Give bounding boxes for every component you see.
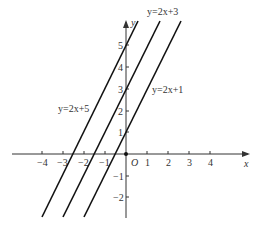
- x-tick-label: 3: [187, 157, 192, 168]
- y-tick-label: 5: [118, 40, 123, 51]
- y-tick-label: 2: [118, 106, 123, 117]
- y-tick-label: −2: [113, 192, 124, 203]
- line-y-2x-plus-5: [42, 21, 138, 217]
- x-axis-arrow-icon: [242, 151, 250, 157]
- x-tick-label: 4: [208, 157, 213, 168]
- coordinate-plane: −4 −3 −2 −1 1 2 3 4 5 4 3 2 1 −1 −2 x y …: [0, 0, 259, 225]
- line-label-2x-plus-3: y=2x+3: [147, 6, 178, 17]
- x-tick-label: 2: [166, 157, 171, 168]
- chart-figure: −4 −3 −2 −1 1 2 3 4 5 4 3 2 1 −1 −2 x y …: [0, 0, 259, 225]
- x-tick-label: −2: [78, 157, 89, 168]
- origin-dot: [124, 152, 128, 156]
- line-y-2x-plus-3: [63, 21, 160, 217]
- x-tick-label: −4: [37, 157, 48, 168]
- x-tick-label: 1: [145, 157, 150, 168]
- y-tick-label: −1: [113, 171, 124, 182]
- x-axis-label: x: [243, 158, 249, 169]
- y-axis-arrow-icon: [123, 20, 129, 28]
- line-label-2x-plus-1: y=2x+1: [152, 84, 183, 95]
- y-tick-label: 4: [118, 62, 123, 73]
- y-tick-label: 3: [118, 84, 123, 95]
- line-y-2x-plus-1: [84, 21, 181, 217]
- x-tick-label: −1: [99, 157, 110, 168]
- y-tick-label: 1: [118, 127, 123, 138]
- origin-label: O: [131, 157, 138, 168]
- line-label-2x-plus-5: y=2x+5: [58, 103, 89, 114]
